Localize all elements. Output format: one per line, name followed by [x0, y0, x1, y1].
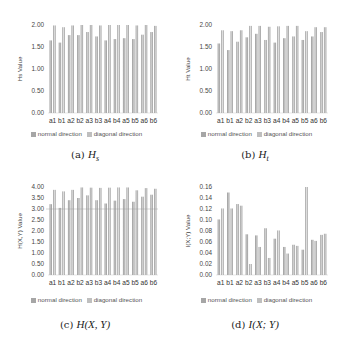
bar-normal-direction [283, 247, 285, 275]
chart-panel-ht: 0.000.501.001.502.00Ht Valuea1b1a2b2a3b3… [170, 0, 340, 172]
y-tick-label: 2.00 [200, 21, 213, 28]
x-category-label: b5 [131, 117, 139, 124]
y-tick-label: 1.50 [32, 43, 45, 50]
bar-diagonal-direction [324, 27, 326, 113]
x-category-label: b3 [264, 279, 272, 286]
x-category-label: b1 [58, 279, 66, 286]
x-category-label: a6 [141, 117, 149, 124]
chart-legend: normal direction diagonal direction [170, 130, 340, 137]
legend-label-diagonal: diagonal direction [264, 296, 313, 303]
legend-label-diagonal: diagonal direction [94, 296, 143, 303]
bar-diagonal-direction [90, 188, 92, 275]
bar-normal-direction [77, 35, 79, 113]
y-tick-label: 0.04 [200, 249, 213, 256]
x-category-label: a2 [67, 279, 75, 286]
caption-math: H [259, 148, 267, 160]
bar-normal-direction [86, 32, 88, 113]
y-tick-label: 2.00 [32, 227, 45, 234]
bar-normal-direction [123, 199, 125, 275]
bar-normal-direction [320, 235, 322, 275]
caption-subscript: t [267, 154, 269, 163]
bar-diagonal-direction [136, 25, 138, 113]
x-category-label: b3 [95, 117, 103, 124]
legend-label-normal: normal direction [208, 296, 252, 303]
x-category-label: b6 [320, 117, 328, 124]
bar-chart-ht: 0.000.501.001.502.00Ht Valuea1b1a2b2a3b3… [170, 0, 341, 130]
bar-diagonal-direction [154, 26, 156, 113]
bar-normal-direction [123, 38, 125, 113]
bar-normal-direction [141, 197, 143, 275]
bar-diagonal-direction [287, 254, 289, 275]
bar-diagonal-direction [62, 27, 64, 113]
bar-diagonal-direction [221, 208, 223, 275]
x-category-label: a3 [86, 117, 94, 124]
bar-diagonal-direction [231, 208, 233, 275]
bar-diagonal-direction [268, 27, 270, 113]
x-category-label: b2 [76, 279, 84, 286]
bar-diagonal-direction [127, 187, 129, 275]
bar-normal-direction [274, 239, 276, 275]
bar-normal-direction [302, 40, 304, 113]
caption-math: I(X; Y) [249, 318, 279, 330]
bar-diagonal-direction [108, 25, 110, 113]
caption-math: H(X, Y) [76, 318, 110, 330]
bar-normal-direction [77, 198, 79, 275]
legend-swatch-normal [31, 132, 36, 137]
legend-label-diagonal: diagonal direction [264, 130, 313, 137]
legend-label-normal: normal direction [208, 130, 252, 137]
bar-normal-direction [236, 42, 238, 113]
legend-swatch-diagonal [87, 132, 92, 137]
bar-normal-direction [246, 37, 248, 113]
bar-normal-direction [255, 34, 257, 113]
bar-normal-direction [50, 40, 52, 113]
legend-label-normal: normal direction [38, 296, 82, 303]
bar-normal-direction [95, 200, 97, 275]
bar-normal-direction [292, 245, 294, 275]
y-tick-label: 2.00 [32, 21, 45, 28]
bar-normal-direction [150, 195, 152, 275]
bar-normal-direction [86, 195, 88, 275]
y-tick-label: 0.50 [32, 87, 45, 94]
y-tick-label: 0.10 [200, 216, 213, 223]
bar-normal-direction [132, 39, 134, 113]
bar-chart-hs: 0.000.501.001.502.00Hs Valuea1b1a2b2a3b3… [0, 0, 170, 130]
figure-caption: (b) Ht [170, 148, 340, 163]
bar-diagonal-direction [287, 26, 289, 113]
caption-prefix: (b) [241, 149, 255, 160]
y-tick-label: 1.50 [32, 238, 45, 245]
bar-diagonal-direction [72, 25, 74, 113]
bar-chart-ixy: 0.000.020.040.060.080.100.120.140.16I(X;… [170, 172, 341, 302]
bar-diagonal-direction [53, 190, 55, 275]
bar-normal-direction [227, 50, 229, 113]
y-tick-label: 0.16 [200, 183, 213, 190]
y-axis-label: Hs Value [16, 56, 23, 81]
bar-normal-direction [132, 202, 134, 275]
x-category-label: b5 [131, 279, 139, 286]
bar-chart-hxy: 0.000.501.001.502.002.503.003.504.00H(X,… [0, 172, 170, 302]
bar-diagonal-direction [90, 25, 92, 113]
x-category-label: a4 [104, 117, 112, 124]
x-category-label: b5 [301, 279, 309, 286]
bar-normal-direction [114, 201, 116, 275]
bar-diagonal-direction [259, 247, 261, 275]
x-category-label: b5 [301, 117, 309, 124]
bar-diagonal-direction [108, 188, 110, 275]
figure-caption: (a) Hs [0, 148, 170, 163]
bar-normal-direction [274, 43, 276, 113]
y-tick-label: 0.08 [200, 227, 213, 234]
bar-normal-direction [218, 43, 220, 113]
bar-diagonal-direction [277, 26, 279, 113]
x-category-label: b2 [76, 117, 84, 124]
y-tick-label: 0.50 [32, 260, 45, 267]
y-tick-label: 3.50 [32, 194, 45, 201]
x-category-label: a6 [141, 279, 149, 286]
x-category-label: b4 [282, 279, 290, 286]
y-axis-label: H(X,Y) Value [16, 213, 23, 249]
bar-diagonal-direction [249, 264, 251, 275]
bar-diagonal-direction [249, 26, 251, 113]
bar-diagonal-direction [154, 189, 156, 275]
bar-diagonal-direction [145, 25, 147, 113]
caption-prefix: (c) [60, 319, 73, 330]
y-tick-label: 0.00 [32, 109, 45, 116]
caption-prefix: (d) [231, 319, 245, 330]
